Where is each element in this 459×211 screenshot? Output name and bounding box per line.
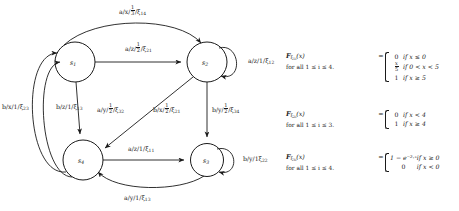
- state-label-s2-index: 2: [205, 62, 208, 67]
- equation-1-case-3-cond: if x ≥ 5: [403, 73, 439, 82]
- equation-1-case-3-value: 1: [390, 73, 403, 82]
- edge-label-diag-tail-sub: 21: [175, 109, 181, 114]
- edge-label-leftinner-rv-sub: 13: [77, 106, 83, 111]
- edge-label-s1s4-sym: a/y/: [97, 106, 108, 113]
- edge-s2-self-loop: [219, 47, 237, 76]
- state-label-s3-index: 3: [206, 160, 209, 165]
- edge-label-s3-s4-arc-bottom: a/y/1/ξ13: [124, 195, 150, 202]
- equation-1-arg: (x): [296, 52, 305, 60]
- state-label-s4-index: 4: [81, 160, 84, 165]
- equation-1-case-2-cond: if 0 < x < 5: [403, 61, 439, 72]
- equation-1-equals: =: [378, 52, 383, 60]
- edge-label-s4s3-rv-sub: 11: [149, 148, 155, 153]
- equation-3-case-row: 0 if x < 0: [390, 162, 439, 171]
- equation-3-quantifier: for all 1 ≤ i ≤ 4.: [286, 164, 334, 173]
- edge-label-s1s2-tail-sub: 21: [146, 48, 152, 53]
- equation-1-case-2-value: x5: [390, 61, 403, 72]
- equation-2-equals: =: [378, 110, 383, 118]
- state-label-s1: s1: [70, 59, 76, 67]
- edge-label-s2self-pre: a/z/1/: [248, 57, 265, 64]
- distribution-equations: Fξ1i(x) for all 1 ≤ i ≤ 4. = 0 if x ≤ 0 …: [282, 0, 459, 211]
- state-label-s1-index: 1: [73, 62, 76, 67]
- equation-3-case-1-cond: if x ≥ 0: [417, 153, 440, 162]
- edge-label-leftouter-rv-sub: 23: [23, 106, 29, 111]
- equation-2-case-2-cond: if x ≥ 4: [403, 119, 426, 128]
- equation-3-case-2-value: 0: [390, 162, 417, 171]
- equation-1-brace: [385, 52, 389, 82]
- equation-3-cases: 1 − e⁻²·ˣ if x ≥ 0 0 if x < 0: [385, 153, 440, 172]
- equation-2-case-row: 1 if x ≥ 4: [390, 119, 426, 128]
- equation-3-equals: =: [378, 153, 383, 161]
- edge-label-s2s3-tail-sub: 34: [234, 109, 240, 114]
- edge-label-s4s3-pre: a/z/1/: [128, 145, 145, 152]
- edge-label-s4-s1-arc-outer: b/x/1/ξ23: [2, 104, 29, 111]
- edge-label-s2self-rv-sub: 12: [269, 60, 275, 65]
- state-label-s2: s2: [202, 59, 208, 67]
- edge-s4-s1-arc-outer: [32, 53, 66, 172]
- edge-label-top-sym: a/x/: [119, 8, 130, 15]
- equation-2-brace: [385, 110, 389, 129]
- edge-label-top-tail-sub: 14: [140, 11, 146, 16]
- edge-label-leftinner-pre: b/z/1/: [56, 103, 73, 110]
- equation-2-case-table: 0 if x < 4 1 if x ≥ 4: [390, 110, 426, 129]
- equation-2-quantifier: for all 1 ≤ i ≤ 3.: [286, 121, 334, 130]
- edge-label-s2-s3: b/y/12/ξ34: [212, 103, 239, 114]
- edge-s4-s1-arc-inner: [43, 62, 72, 177]
- edge-label-s2-s4-diagonal: b/x/12/ξ21: [153, 103, 180, 114]
- equation-3-brace: [385, 153, 389, 172]
- equation-1-quantifier: for all 1 ≤ i ≤ 4.: [286, 63, 334, 72]
- edge-label-s1s4-tail-sub: 32: [118, 109, 124, 114]
- edge-label-s3self-pre: b/y/1: [243, 155, 259, 162]
- equation-1-case-table: 0 if x ≤ 0 x5 if 0 < x < 5 1 if x ≥ 5: [390, 52, 439, 82]
- state-label-s3: s3: [203, 157, 209, 165]
- equation-row-2: Fξ2i(x) for all 1 ≤ i ≤ 3. = 0 if x < 4 …: [286, 110, 426, 130]
- edge-label-s2s3-sym: b/y/: [212, 106, 224, 113]
- equation-3-case-table: 1 − e⁻²·ˣ if x ≥ 0 0 if x < 0: [390, 153, 439, 172]
- equation-2-case-2-value: 1: [390, 119, 403, 128]
- edge-label-s3-self-loop: b/y/1ξ22: [243, 156, 268, 163]
- edge-label-s3self-rv-sub: 22: [262, 158, 268, 163]
- edge-label-diag-sym: b/x/: [153, 106, 165, 113]
- equation-1-case-row: 1 if x ≥ 5: [390, 73, 439, 82]
- equation-2-case-row: 0 if x < 4: [390, 110, 426, 119]
- edge-s3-self-loop: [217, 148, 234, 172]
- equation-3-lhs: Fξ3i(x) for all 1 ≤ i ≤ 4.: [286, 153, 334, 173]
- state-label-s4: s4: [78, 157, 84, 165]
- edge-label-s1-s4: a/y/12/ξ32: [97, 103, 124, 114]
- edge-label-s4-s3: a/z/1/ξ11: [128, 146, 154, 153]
- equation-row-1: Fξ1i(x) for all 1 ≤ i ≤ 4. = 0 if x ≤ 0 …: [286, 52, 439, 82]
- equation-3-arg: (x): [296, 153, 305, 161]
- edge-label-s4-s1-arc-inner: b/z/1/ξ13: [56, 104, 83, 111]
- equation-2-lhs: Fξ2i(x) for all 1 ≤ i ≤ 3.: [286, 110, 334, 130]
- equation-1-case-1-cond: if x ≤ 0: [403, 52, 439, 61]
- equation-3-case-2-cond: if x < 0: [417, 162, 440, 171]
- edge-s3-s4-arc-bottom: [98, 172, 204, 188]
- equation-3-case-row: 1 − e⁻²·ˣ if x ≥ 0: [390, 153, 439, 162]
- equation-row-3: Fξ3i(x) for all 1 ≤ i ≤ 4. = 1 − e⁻²·ˣ i…: [286, 153, 439, 173]
- edge-label-s1-s2-arc-top: a/x/13/ξ14: [119, 5, 146, 16]
- edge-label-bottom-rv-sub: 13: [145, 197, 151, 202]
- edge-label-bottom-pre: a/y/1/: [124, 194, 141, 201]
- equation-2-case-1-value: 0: [390, 110, 403, 119]
- equation-2-case-1-cond: if x < 4: [403, 110, 426, 119]
- equation-2-arg: (x): [296, 110, 305, 118]
- edge-label-s1-s2-straight: a/z/12/ξ21: [125, 42, 152, 53]
- edge-label-s1s2-sym: a/z/: [125, 45, 136, 52]
- figure-canvas: s1 s2 s3 s4 a/x/13/ξ14 a/z/12/ξ21 a/z/1/…: [0, 0, 459, 211]
- equation-1-lhs: Fξ1i(x) for all 1 ≤ i ≤ 4.: [286, 52, 334, 72]
- equation-3-case-1-value: 1 − e⁻²·ˣ: [390, 153, 417, 162]
- equation-2-cases: 0 if x < 4 1 if x ≥ 4: [385, 110, 426, 129]
- equation-1-case-row: x5 if 0 < x < 5: [390, 61, 439, 72]
- edge-label-leftouter-pre: b/x/1/: [2, 103, 20, 110]
- edge-label-s2-self-loop: a/z/1/ξ12: [248, 58, 274, 65]
- equation-1-cases: 0 if x ≤ 0 x5 if 0 < x < 5 1 if x ≥ 5: [385, 52, 439, 82]
